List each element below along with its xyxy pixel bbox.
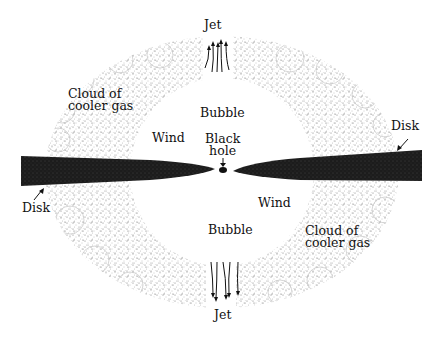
label-disk-left: Disk [22,201,50,214]
label-jet-top: Jet [204,18,221,31]
label-wind-left: Wind [152,131,185,144]
label-cloud-left: Cloud of cooler gas [68,88,133,112]
diagram-canvas [0,0,443,341]
label-jet-bottom: Jet [214,308,231,321]
black-hole-diagram: Jet Cloud of cooler gas Bubble Wind Blac… [0,0,443,341]
label-bubble-bottom: Bubble [208,223,253,236]
label-wind-right: Wind [258,196,291,209]
label-cloud-right: Cloud of cooler gas [305,225,370,249]
label-black-hole-line2: hole [205,145,240,157]
black-hole [219,167,227,173]
label-cloud-left-line2: cooler gas [68,100,133,112]
label-cloud-right-line2: cooler gas [305,237,370,249]
label-black-hole: Black hole [205,133,240,157]
disk-right-pointer-arrow [397,139,408,151]
label-bubble-top: Bubble [200,106,245,119]
label-disk-right: Disk [391,119,419,132]
disk-left-pointer-arrow [34,188,44,200]
